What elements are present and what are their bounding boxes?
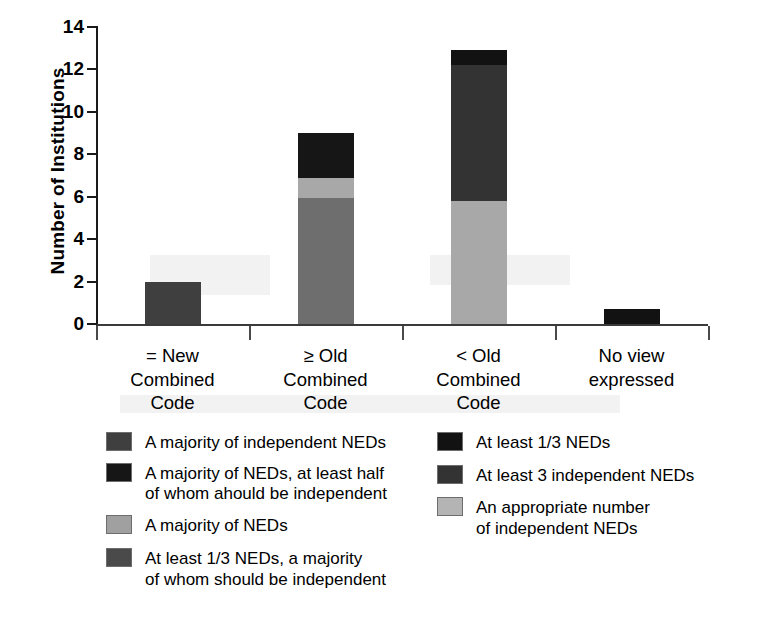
y-axis-tick-label: 4 (40, 229, 84, 248)
legend-label: At least 3 independent NEDs (476, 465, 694, 487)
legend-item[interactable]: A majority of NEDs, at least half of who… (106, 463, 406, 505)
legend-item[interactable]: An appropriate number of independent NED… (437, 497, 757, 539)
legend-item[interactable]: At least 1/3 NEDs (437, 432, 757, 454)
y-axis-tick-label: 0 (40, 314, 84, 333)
legend-item[interactable]: At least 3 independent NEDs (437, 465, 757, 487)
y-axis-tick-label: 12 (40, 59, 84, 78)
bar-stack[interactable] (298, 27, 354, 324)
legend-swatch (106, 515, 132, 534)
bar-stack[interactable] (604, 27, 660, 324)
legend-swatch (106, 463, 132, 482)
legend-item[interactable]: A majority of independent NEDs (106, 432, 406, 454)
bar-segment[interactable] (451, 50, 507, 65)
legend-label: An appropriate number of independent NED… (476, 497, 650, 539)
legend-item[interactable]: A majority of NEDs (106, 515, 406, 537)
legend-swatch (437, 497, 463, 516)
legend-label: A majority of NEDs (145, 515, 288, 537)
x-axis-separator-tick (249, 326, 251, 340)
y-axis-tick-mark (87, 238, 97, 240)
y-axis-tick-mark (87, 153, 97, 155)
bar-segment[interactable] (604, 309, 660, 324)
chart-figure: Number of Institutions 02468101214 = New… (0, 0, 762, 626)
bar-segment[interactable] (145, 282, 201, 324)
legend-swatch (106, 432, 132, 451)
x-axis-category-label: No view expressed (555, 344, 708, 391)
y-axis-tick-label: 14 (40, 17, 84, 36)
bar-segment[interactable] (298, 133, 354, 178)
bar-segment[interactable] (451, 201, 507, 324)
y-axis-tick-label: 6 (40, 187, 84, 206)
legend-column-right: At least 1/3 NEDsAt least 3 independent … (437, 432, 757, 540)
plot-area: Number of Institutions 02468101214 = New… (0, 0, 762, 420)
y-axis-tick-label: 10 (40, 102, 84, 121)
legend-swatch (437, 432, 463, 451)
legend-label: At least 1/3 NEDs (476, 432, 610, 454)
legend-swatch (106, 548, 132, 567)
x-axis-separator-tick (555, 326, 557, 340)
bar-stack[interactable] (451, 27, 507, 324)
x-axis-category-label: = New Combined Code (96, 344, 249, 415)
legend-column-left: A majority of independent NEDsA majority… (106, 432, 406, 590)
chart-legend: A majority of independent NEDsA majority… (0, 432, 762, 626)
bar-segment[interactable] (451, 65, 507, 201)
y-axis-tick-mark (87, 196, 97, 198)
x-axis-separator-tick (96, 326, 98, 340)
x-axis-category-label: ≥ Old Combined Code (249, 344, 402, 415)
legend-label: A majority of independent NEDs (145, 432, 386, 454)
legend-label: At least 1/3 NEDs, a majority of whom sh… (145, 548, 386, 590)
x-axis-category-label: < Old Combined Code (402, 344, 555, 415)
y-axis-tick-mark (87, 281, 97, 283)
y-axis-tick-mark (87, 68, 97, 70)
y-axis-tick-label: 2 (40, 272, 84, 291)
bar-segment[interactable] (298, 178, 354, 198)
y-axis-tick-label: 8 (40, 144, 84, 163)
y-axis-tick-mark (87, 26, 97, 28)
bar-segment[interactable] (298, 198, 354, 324)
x-axis-separator-tick (402, 326, 404, 340)
legend-swatch (437, 465, 463, 484)
bar-stack[interactable] (145, 27, 201, 324)
y-axis-tick-mark (87, 111, 97, 113)
x-axis-separator-tick (708, 326, 710, 340)
y-axis-tick-mark (87, 323, 97, 325)
legend-label: A majority of NEDs, at least half of who… (145, 463, 387, 505)
legend-item[interactable]: At least 1/3 NEDs, a majority of whom sh… (106, 548, 406, 590)
